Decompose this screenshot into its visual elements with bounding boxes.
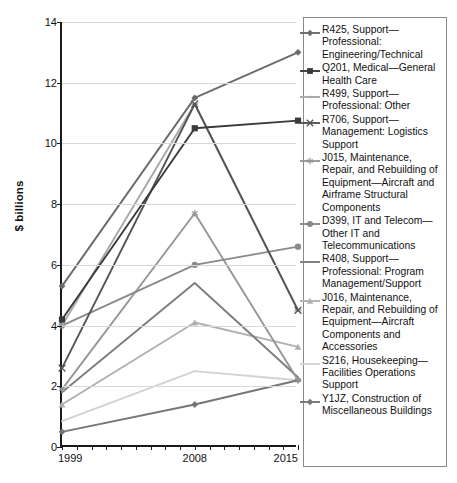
- data-point-square: [59, 316, 65, 322]
- series-group: [59, 319, 302, 407]
- legend-item[interactable]: R425, Support—Professional: Engineering/…: [304, 24, 442, 61]
- legend-key-diamond-icon: [298, 26, 322, 40]
- gridline: [62, 143, 296, 144]
- legend-label: S216, Housekeeping—Facilities Operations…: [322, 355, 442, 392]
- x-tick-mark: [92, 445, 93, 450]
- legend-item[interactable]: J016, Maintenance, Repair, and Rebuildin…: [304, 292, 442, 354]
- gridline: [62, 22, 296, 23]
- y-tick-label: 6: [51, 259, 57, 271]
- data-point-diamond: [295, 49, 302, 56]
- data-point-square: [307, 68, 313, 74]
- series-group: [62, 371, 298, 421]
- gridline: [62, 204, 296, 205]
- legend-label: Q201, Medical—General Health Care: [322, 62, 442, 87]
- x-tick-label: 1999: [58, 452, 82, 464]
- x-tick-mark: [180, 445, 181, 450]
- legend-item[interactable]: R408, Support—Professional: Program Mana…: [304, 253, 442, 290]
- legend-label: R408, Support—Professional: Program Mana…: [322, 253, 442, 290]
- data-point-diamond: [191, 401, 198, 408]
- legend-key-diamond-icon: [298, 395, 322, 409]
- legend-key-x-icon: [298, 116, 322, 130]
- legend-key-circle-icon: [298, 217, 322, 231]
- legend-key-triangle-icon: [298, 294, 322, 308]
- x-tick-mark: [269, 445, 270, 450]
- x-tick-mark: [165, 445, 166, 450]
- legend-item[interactable]: R499, Support—Professional: Other: [304, 88, 442, 113]
- x-tick-label: 2008: [183, 452, 207, 464]
- y-tick-mark: [57, 143, 62, 144]
- legend-item[interactable]: S216, Housekeeping—Facilities Operations…: [304, 355, 442, 392]
- x-tick-mark: [224, 445, 225, 450]
- chart-figure: $ billions 02468101214199920082015 R425,…: [0, 0, 457, 483]
- legend-key-line-icon: [298, 357, 322, 371]
- y-tick-mark: [57, 326, 62, 327]
- x-tick-mark: [195, 445, 196, 450]
- x-tick-mark: [283, 445, 284, 450]
- y-tick-mark: [57, 22, 62, 23]
- data-point-diamond: [307, 399, 313, 405]
- y-tick-label: 14: [45, 16, 57, 28]
- plot-wrapper: 02468101214199920082015: [44, 14, 296, 456]
- data-point-circle: [307, 221, 313, 227]
- data-point-x: [59, 365, 66, 372]
- y-tick-label: 4: [51, 320, 57, 332]
- y-axis-title: $ billions: [13, 151, 25, 261]
- series-canvas: [62, 22, 298, 447]
- legend-label: Y1JZ, Construction of Miscellaneous Buil…: [322, 393, 442, 418]
- legend-key-dash-icon: [298, 90, 322, 104]
- y-tick-mark: [57, 83, 62, 84]
- x-tick-mark: [106, 445, 107, 450]
- legend-label: D399, IT and Telecom—Other IT and Teleco…: [322, 215, 442, 252]
- legend-label: J016, Maintenance, Repair, and Rebuildin…: [322, 292, 442, 354]
- gridline: [62, 265, 296, 266]
- y-tick-mark: [57, 204, 62, 205]
- x-tick-mark: [121, 445, 122, 450]
- y-tick-label: 10: [45, 137, 57, 149]
- legend-key-asterisk-icon: [298, 154, 322, 168]
- x-tick-mark: [151, 445, 152, 450]
- chart-legend: R425, Support—Professional: Engineering/…: [303, 17, 447, 467]
- x-tick-mark: [254, 445, 255, 450]
- x-tick-label: 2015: [274, 452, 298, 464]
- series-group: [59, 103, 302, 327]
- y-tick-mark: [57, 265, 62, 266]
- plot-area: 02468101214199920082015: [60, 22, 296, 447]
- gridline: [62, 83, 296, 84]
- data-point-dash: [307, 96, 313, 98]
- y-tick-mark: [57, 386, 62, 387]
- legend-item[interactable]: Y1JZ, Construction of Miscellaneous Buil…: [304, 393, 442, 418]
- data-point-square: [192, 125, 198, 131]
- y-tick-label: 0: [51, 441, 57, 453]
- data-point-diamond: [307, 30, 313, 36]
- gridline: [62, 386, 296, 387]
- x-tick-mark: [136, 445, 137, 450]
- legend-key-square-icon: [298, 64, 322, 78]
- gridline: [62, 326, 296, 327]
- legend-item[interactable]: D399, IT and Telecom—Other IT and Teleco…: [304, 215, 442, 252]
- series-group: [59, 243, 301, 328]
- x-tick-mark: [62, 445, 63, 450]
- legend-label: R706, Support—Management: Logistics Supp…: [322, 114, 442, 151]
- x-tick-mark: [239, 445, 240, 450]
- series-group: [59, 118, 301, 323]
- legend-item[interactable]: Q201, Medical—General Health Care: [304, 62, 442, 87]
- x-tick-mark: [210, 445, 211, 450]
- data-point-circle: [295, 243, 301, 249]
- x-tick-mark: [298, 445, 299, 450]
- legend-item[interactable]: R706, Support—Management: Logistics Supp…: [304, 114, 442, 151]
- legend-label: J015, Maintenance, Repair, and Rebuildin…: [322, 152, 442, 214]
- y-tick-label: 12: [45, 77, 57, 89]
- x-tick-mark: [77, 445, 78, 450]
- legend-key-line-icon: [298, 255, 322, 269]
- legend-label: R425, Support—Professional: Engineering/…: [322, 24, 442, 61]
- data-point-diamond: [59, 428, 66, 435]
- legend-item[interactable]: J015, Maintenance, Repair, and Rebuildin…: [304, 152, 442, 214]
- y-tick-label: 8: [51, 198, 57, 210]
- legend-label: R499, Support—Professional: Other: [322, 88, 442, 113]
- y-tick-label: 2: [51, 380, 57, 392]
